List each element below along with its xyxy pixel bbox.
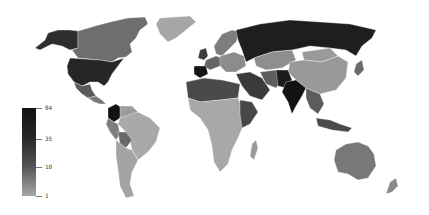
western-europe[interactable] [204,56,222,70]
legend-tick-84 [36,108,42,109]
peru[interactable] [106,118,120,140]
central-europe[interactable] [220,52,246,72]
africa[interactable] [188,98,244,172]
usa[interactable] [67,58,124,86]
new-zealand[interactable] [386,178,398,194]
legend-label-84: 84 [45,105,52,111]
indonesia[interactable] [316,118,352,132]
legend-tick-10 [36,167,42,168]
madagascar[interactable] [250,140,258,160]
legend-color-bar [22,108,36,196]
uk[interactable] [198,48,208,60]
australia[interactable] [334,142,376,180]
japan[interactable] [354,60,364,76]
legend-tick-1 [36,196,42,197]
world-map [0,0,429,215]
legend-label-10: 10 [45,164,52,170]
scandinavia[interactable] [214,30,240,56]
alaska[interactable] [35,30,78,50]
north-africa[interactable] [186,78,240,102]
legend-tick-35 [36,139,42,140]
central-america[interactable] [88,96,106,104]
legend-label-35: 35 [45,136,52,142]
legend-label-1: 1 [45,193,49,199]
canada[interactable] [72,17,148,62]
east-africa[interactable] [240,100,258,128]
india[interactable] [282,80,306,114]
greenland[interactable] [156,16,196,42]
spain[interactable] [194,66,208,78]
